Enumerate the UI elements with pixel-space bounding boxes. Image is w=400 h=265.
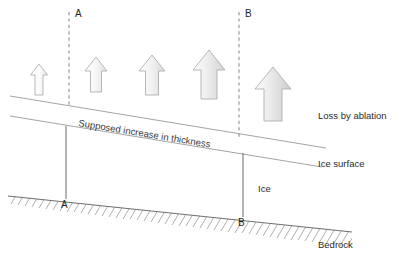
ablation-arrow-1: [31, 64, 48, 95]
ablation-arrow-5: [255, 67, 291, 121]
bedrock-hatch-group: [4, 186, 357, 247]
ablation-arrows-group: [31, 50, 292, 121]
loss-by-ablation-label: Loss by ablation: [318, 110, 387, 121]
figure-root: A B A B Loss by ablation Supposed increa…: [0, 0, 400, 265]
bottom-marker-b-label: B: [238, 217, 245, 228]
bedrock-label: Bedrock: [318, 239, 353, 250]
glacier-ablation-diagram: A B A B Loss by ablation Supposed increa…: [0, 0, 400, 265]
bedrock-surface-line: [8, 196, 352, 232]
supposed-increase-label: Supposed increase in thickness: [78, 117, 212, 149]
top-marker-a-label: A: [75, 8, 82, 19]
bottom-marker-a-label: A: [61, 199, 68, 210]
ice-label: Ice: [258, 183, 271, 194]
ablation-arrow-3: [139, 55, 165, 95]
ice-surface-label: Ice surface: [318, 158, 364, 169]
top-marker-b-label: B: [245, 8, 252, 19]
ablation-arrow-2: [85, 57, 107, 92]
ablation-arrow-4: [193, 50, 225, 99]
